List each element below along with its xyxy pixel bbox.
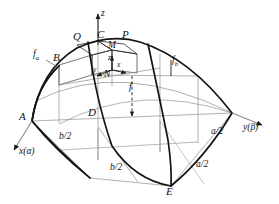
dimension-label-a-half-upper: a/2 bbox=[211, 127, 223, 137]
shell-diagram-svg bbox=[0, 0, 279, 204]
rise-f-a-sub: a bbox=[36, 54, 39, 61]
dimension-label-b-half-lower: b/2 bbox=[110, 163, 122, 173]
local-axis-label-z: z bbox=[108, 54, 111, 62]
axis-arrows bbox=[14, 14, 262, 150]
axis-label-y-beta: y(β) bbox=[243, 123, 258, 133]
vertex-label-D: D bbox=[88, 107, 96, 118]
rise-label-f-a: fa bbox=[33, 50, 39, 61]
surface-mesh bbox=[36, 45, 232, 128]
base-plan-grid bbox=[32, 113, 232, 186]
rise-label-f-b: fb bbox=[172, 56, 178, 67]
vertex-label-E: E bbox=[166, 186, 173, 197]
local-axis-label-y: y bbox=[93, 66, 96, 74]
axis-label-x-alpha: x(α) bbox=[19, 147, 35, 157]
rise-label-f: f bbox=[129, 83, 132, 93]
axis-label-z: z bbox=[101, 9, 105, 19]
vertex-label-N: N bbox=[104, 70, 110, 80]
vertex-label-M: M bbox=[108, 41, 116, 51]
vertex-label-A: A bbox=[19, 111, 26, 122]
dimension-label-a-half-lower: a/2 bbox=[196, 160, 208, 170]
vertex-label-C: C bbox=[97, 29, 104, 40]
rise-f-b-sub: b bbox=[175, 60, 178, 67]
vertex-label-P: P bbox=[122, 29, 129, 40]
vertex-label-B: B bbox=[53, 52, 60, 63]
plan-dim-ticks bbox=[98, 121, 160, 160]
vertical-projectors bbox=[59, 45, 232, 160]
vertex-label-Q: Q bbox=[73, 31, 81, 42]
figure-canvas: z x(α) y(β) A B C D E P Q M N x y z f fa… bbox=[0, 0, 279, 204]
dimension-label-b-half-upper: b/2 bbox=[59, 132, 71, 142]
local-axis-label-x: x bbox=[117, 61, 120, 69]
